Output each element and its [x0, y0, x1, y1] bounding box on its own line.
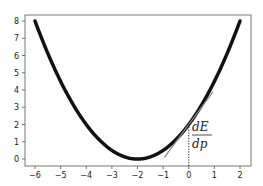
x-tick-label: −4: [80, 171, 92, 180]
x-tick-label: −5: [55, 171, 67, 180]
y-tick-label: 3: [14, 103, 19, 112]
annotation-numerator: dE: [192, 120, 209, 134]
y-tick-label: 7: [14, 34, 19, 43]
y-tick-label: 2: [14, 121, 19, 130]
plot-area: [35, 21, 240, 166]
x-tick-label: 0: [186, 171, 191, 180]
chart: −6−5−4−3−2−1012012345678 dE dp: [0, 0, 263, 186]
y-tick-label: 1: [14, 138, 19, 147]
y-tick-label: 8: [14, 17, 19, 26]
x-tick-label: −6: [29, 171, 41, 180]
annotation-denominator: dp: [192, 137, 208, 151]
parabola-curve: [35, 21, 240, 159]
y-tick-label: 6: [14, 52, 19, 61]
derivative-annotation: dE dp: [192, 120, 212, 151]
y-tick-label: 5: [14, 69, 19, 78]
axes-frame: [25, 15, 251, 166]
y-tick-label: 0: [14, 155, 19, 164]
x-tick-label: −2: [132, 171, 144, 180]
x-tick-label: 1: [212, 171, 217, 180]
x-tick-label: 2: [237, 171, 242, 180]
x-tick-label: −3: [106, 171, 118, 180]
x-tick-label: −1: [157, 171, 169, 180]
y-tick-label: 4: [14, 86, 19, 95]
